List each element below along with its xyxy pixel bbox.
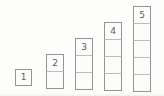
column-count-label: 5: [139, 11, 145, 20]
unit-square: [133, 74, 151, 92]
unit-square: [104, 73, 122, 91]
unit-square: 3: [75, 38, 93, 56]
unit-square: [133, 57, 151, 75]
square-column-4: 4: [104, 22, 122, 91]
unit-square: [133, 40, 151, 58]
unit-square: 4: [104, 22, 122, 40]
unit-square: [104, 39, 122, 57]
column-count-label: 2: [52, 59, 58, 68]
unit-square: [46, 71, 64, 89]
unit-square: 2: [46, 54, 64, 72]
square-column-5: 5: [133, 6, 151, 92]
unit-square: [75, 55, 93, 73]
square-column-1: 1: [15, 69, 32, 86]
unit-square: 1: [15, 69, 32, 86]
unit-square: [133, 23, 151, 41]
column-count-label: 1: [21, 73, 27, 82]
unit-square: [104, 56, 122, 74]
staircase-diagram: 12345: [0, 0, 164, 96]
unit-square: [75, 72, 93, 90]
column-count-label: 3: [81, 43, 87, 52]
square-column-2: 2: [46, 54, 64, 89]
unit-square: 5: [133, 6, 151, 24]
square-column-3: 3: [75, 38, 93, 90]
column-count-label: 4: [110, 27, 116, 36]
